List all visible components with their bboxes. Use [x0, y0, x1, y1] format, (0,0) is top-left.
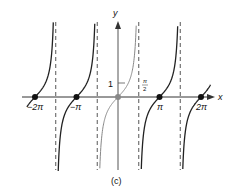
pi-half-denominator: 2 [143, 86, 147, 92]
zero-point [198, 94, 204, 100]
x-axis-label: x [217, 92, 223, 102]
branch-left-2-curve [27, 22, 53, 107]
origin-point [115, 94, 121, 100]
x-tick-label-neg-pi: −π [70, 102, 82, 112]
x-tick-label-neg-two-pi: −2π [27, 102, 44, 112]
figure-caption: (c) [111, 176, 122, 186]
y-tick-label-one: 1 [108, 79, 113, 89]
y-axis-label: y [112, 8, 118, 18]
zero-point [157, 94, 163, 100]
x-tick-label-pi: π [157, 102, 164, 112]
tangent-graph-figure: y x 1 π 2 −2π −π π 2π (c) [0, 0, 231, 195]
y-axis-arrow-icon [115, 21, 121, 29]
x-axis-arrow-icon [207, 94, 215, 100]
zero-point [32, 94, 38, 100]
pi-half-numerator: π [143, 78, 148, 84]
x-tick-label-two-pi: 2π [195, 102, 208, 112]
zero-point [73, 94, 79, 100]
plot-area: y x 1 π 2 −2π −π π 2π (c) [0, 0, 231, 195]
